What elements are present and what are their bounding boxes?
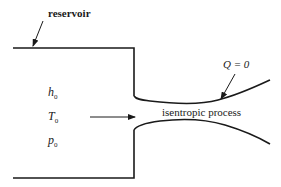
- nozzle-top-wall: [134, 80, 270, 104]
- reservoir-top-wall: [13, 48, 134, 96]
- enthalpy-label: h0: [48, 85, 58, 101]
- pressure-label: p0: [47, 133, 58, 149]
- temperature-label: T0: [48, 109, 59, 125]
- reservoir-nozzle-diagram: reservoir h0 T0 p0 isentropic process Q …: [0, 0, 281, 187]
- stagnation-properties: h0 T0 p0: [47, 85, 59, 149]
- reservoir-leader-arrow: [33, 21, 43, 46]
- reservoir-label: reservoir: [48, 7, 91, 19]
- isentropic-process-label: isentropic process: [162, 106, 241, 118]
- reservoir-bottom-wall: [13, 130, 134, 178]
- nozzle-bottom-wall: [134, 119, 270, 144]
- reservoir-walls: [13, 48, 134, 178]
- heat-transfer-label: Q = 0: [223, 58, 250, 70]
